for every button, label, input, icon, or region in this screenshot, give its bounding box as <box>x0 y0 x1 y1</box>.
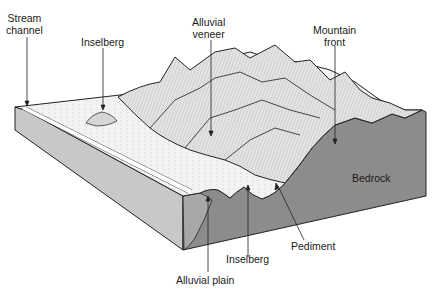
label-stream-channel: Stream channel <box>6 12 43 36</box>
label-mountain-front-line2: front <box>313 36 356 48</box>
label-inselberg-bottom: Inselberg <box>226 253 269 265</box>
label-bedrock: Bedrock <box>352 172 391 184</box>
label-inselberg-top: Inselberg <box>81 36 124 48</box>
label-mountain-front: Mountain front <box>313 24 356 48</box>
label-alluvial-plain: Alluvial plain <box>176 274 234 286</box>
label-stream-channel-line1: Stream <box>6 12 43 24</box>
block-diagram-svg <box>0 0 438 295</box>
label-pediment: Pediment <box>291 240 335 252</box>
label-mountain-front-line1: Mountain <box>313 24 356 36</box>
label-alluvial-veneer-line2: veneer <box>192 28 225 40</box>
label-alluvial-veneer-line1: Alluvial <box>192 16 225 28</box>
pediment-diagram: Stream channel Inselberg Alluvial veneer… <box>0 0 438 295</box>
label-alluvial-veneer: Alluvial veneer <box>192 16 225 40</box>
label-stream-channel-line2: channel <box>6 24 43 36</box>
